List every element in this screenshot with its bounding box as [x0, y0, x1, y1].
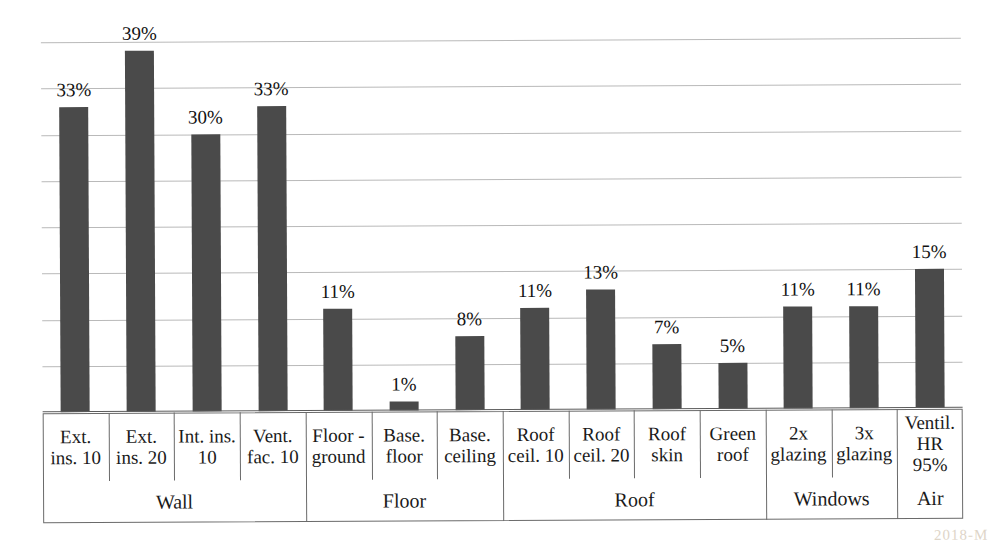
- axis-category-cell: Ext.ins. 10: [43, 413, 109, 481]
- gridline: [41, 130, 961, 135]
- gridlines: [41, 38, 961, 42]
- bar-value-label: 8%: [434, 309, 504, 328]
- axis-category-label: 2xglazing: [770, 422, 826, 464]
- axis-category-label: Base.ceiling: [444, 424, 496, 466]
- bar: [783, 307, 812, 409]
- axis-category-cell: Ventil.HR95%: [897, 409, 963, 477]
- axis-category-cell: Greenroof: [700, 410, 766, 478]
- gridline: [42, 223, 962, 228]
- bar-value-label: 11%: [763, 280, 833, 299]
- bar-value-label: 11%: [303, 282, 373, 301]
- axis-category-label: Ventil.HR95%: [905, 411, 955, 474]
- axis-category-label: Ext.ins. 10: [50, 426, 101, 468]
- axis-category-label: Roofceil. 20: [573, 423, 629, 465]
- axis-group-label: Windows: [766, 477, 898, 520]
- bar-value-label: 15%: [894, 242, 964, 261]
- axis-group-label: Air: [897, 477, 963, 519]
- bar-value-label: 39%: [104, 24, 174, 43]
- axis-category-label: Base.floor: [383, 424, 425, 466]
- bar: [586, 289, 616, 409]
- bar-value-label: 5%: [697, 335, 767, 354]
- axis-category-cell: Roofskin: [634, 410, 700, 478]
- bar: [323, 309, 352, 411]
- bar-value-label: 11%: [828, 279, 898, 298]
- axis-group-label: Floor: [306, 479, 503, 522]
- bar: [455, 336, 484, 410]
- gridline: [41, 38, 961, 43]
- axis-category-cell: Int. ins.10: [174, 412, 240, 480]
- bar-value-label: 1%: [369, 374, 439, 393]
- axis-category-label: Ext.ins. 20: [116, 426, 167, 468]
- bar: [60, 107, 90, 412]
- bar-value-label: 33%: [236, 79, 306, 98]
- bar: [521, 308, 550, 410]
- gridline: [42, 269, 962, 274]
- axis-category-cell: Roofceil. 10: [503, 411, 569, 479]
- axis-category-label: Roofceil. 10: [508, 424, 564, 466]
- bar-chart-figure: 33%39%30%33%11%1%8%11%13%7%5%11%11%15% E…: [0, 0, 1003, 552]
- axis-group-label: Roof: [503, 478, 766, 521]
- axis-category-label: Roofskin: [648, 423, 686, 465]
- axis-category-cell: Floor -ground: [306, 412, 372, 480]
- bar: [191, 134, 221, 412]
- axis-category-label: Greenroof: [710, 423, 757, 465]
- bar-value-label: 33%: [39, 80, 109, 99]
- axis-category-cell: Roofceil. 20: [568, 410, 634, 478]
- category-axis-table: Ext.ins. 10Ext.ins. 20Int. ins.10Vent.fa…: [43, 409, 964, 523]
- gridline: [41, 84, 961, 89]
- axis-category-cell: 3xglazing: [831, 409, 897, 477]
- axis-group-label: Wall: [43, 480, 306, 523]
- bar: [652, 344, 681, 409]
- axis-category-cell: Base.floor: [371, 411, 437, 479]
- bar: [718, 363, 747, 409]
- axis-category-cell: Vent.fac. 10: [240, 412, 306, 480]
- plot-area: 33%39%30%33%11%1%8%11%13%7%5%11%11%15%: [41, 38, 963, 412]
- axis-category-label: Floor -ground: [312, 425, 366, 467]
- bar-value-label: 7%: [631, 317, 701, 336]
- axis-category-label: 3xglazing: [836, 422, 892, 464]
- bar: [125, 51, 156, 412]
- scan-watermark: 2018-M: [934, 527, 988, 544]
- gridline: [42, 177, 962, 182]
- gridline: [42, 361, 962, 366]
- bar: [257, 106, 287, 411]
- bar: [849, 306, 878, 408]
- axis-category-cell: Ext.ins. 20: [108, 413, 174, 481]
- axis-category-label: Int. ins.10: [178, 425, 236, 467]
- bar-value-label: 30%: [170, 107, 240, 126]
- axis-category-label: Vent.fac. 10: [247, 425, 299, 467]
- axis-category-cell: 2xglazing: [766, 409, 832, 477]
- axis-category-cell: Base.ceiling: [437, 411, 503, 479]
- bar-value-label: 11%: [500, 281, 570, 300]
- bar-value-label: 13%: [565, 262, 635, 281]
- bar: [915, 269, 945, 408]
